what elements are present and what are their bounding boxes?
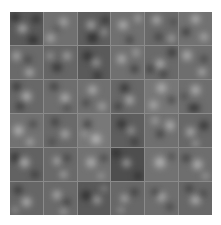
filter-cell [111,46,144,79]
light-blob [59,92,70,104]
light-blob [165,118,175,133]
filter-cell [44,148,77,181]
dark-blob [29,120,37,128]
dark-blob [10,12,21,22]
filter-cell [44,46,77,79]
filter-cell [78,114,111,147]
light-blob [117,207,125,214]
filter-cell [111,80,144,113]
filter-cell [111,12,144,45]
filter-cell [78,148,111,181]
light-blob [51,190,62,200]
light-blob [116,53,127,65]
light-blob [52,156,62,166]
light-blob [45,33,56,43]
filter-cell [10,80,43,113]
filter-cell [145,182,178,215]
filter-cell [10,12,43,45]
filter-cell [179,148,212,181]
light-blob [132,48,140,56]
dark-blob [26,35,41,45]
filter-cell [179,114,212,147]
light-blob [11,207,19,214]
filter-cell [145,80,178,113]
filter-cell [111,114,144,147]
dark-blob [170,19,177,26]
dark-blob [199,119,209,132]
filter-cell [78,12,111,45]
light-blob [153,155,168,170]
filter-cell [145,114,178,147]
light-blob [101,185,108,192]
light-blob [12,124,25,137]
light-blob [58,17,69,27]
light-blob [116,20,131,30]
light-blob [154,58,165,70]
light-blob [62,51,72,61]
light-blob [167,34,175,42]
light-blob [97,173,105,180]
dark-blob [130,138,140,146]
light-blob [127,126,135,136]
dark-blob [12,81,22,93]
light-blob [121,158,132,168]
light-blob [191,140,201,147]
light-blob [189,14,202,24]
light-blob [188,195,203,205]
light-blob [199,32,209,42]
light-blob [197,67,207,77]
dark-blob [130,64,140,74]
light-blob [23,68,36,77]
dark-blob [24,56,31,63]
dark-blob [82,99,90,107]
light-blob [18,156,31,169]
light-blob [59,208,69,215]
dark-blob [200,55,208,63]
filter-cell [44,12,77,45]
filter-cell [145,148,178,181]
dark-blob [50,118,60,126]
dark-blob [154,33,164,41]
light-blob [119,194,130,204]
dark-blob [49,82,59,90]
dark-blob [13,185,23,195]
light-blob [155,82,168,94]
dark-blob [130,188,138,196]
light-blob [97,102,107,110]
dark-blob [31,14,41,24]
filter-cell [44,114,77,147]
dark-blob [63,198,71,206]
dark-blob [166,203,174,211]
filter-cell [10,182,43,215]
dark-blob [133,172,143,180]
dark-blob [63,154,71,162]
light-blob [185,126,196,138]
dark-blob [200,190,207,197]
light-blob [81,131,88,138]
light-blob [88,133,104,145]
light-blob [85,20,96,30]
light-blob [59,129,70,139]
dark-blob [80,189,91,202]
light-blob [191,158,204,171]
dark-blob [100,154,108,162]
dark-blob [15,102,25,110]
dark-blob [168,153,175,160]
filter-cell [111,148,144,181]
dark-blob [146,64,154,74]
light-blob [134,14,142,22]
filter-cell [10,148,43,181]
dark-blob [125,36,135,44]
dark-blob [184,104,204,112]
light-blob [91,58,101,68]
filter-cell [179,182,212,215]
light-blob [46,52,54,60]
dark-blob [182,153,190,163]
filter-cell [10,114,43,147]
dark-blob [116,118,127,130]
light-blob [201,173,209,180]
light-blob [151,116,159,124]
dark-blob [167,47,177,59]
light-blob [150,15,163,25]
dark-blob [181,27,191,37]
